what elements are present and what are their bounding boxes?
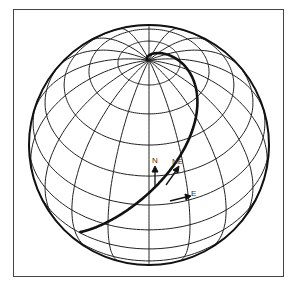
longitude-line	[108, 60, 149, 261]
globe-diagram	[0, 0, 297, 292]
east-label: E	[191, 189, 196, 198]
longitude-line	[149, 59, 265, 116]
northeast-label: NE	[172, 157, 183, 166]
longitude-line	[33, 59, 149, 116]
graticule	[29, 25, 269, 265]
north-label: N	[152, 156, 158, 165]
longitude-line	[149, 60, 226, 247]
